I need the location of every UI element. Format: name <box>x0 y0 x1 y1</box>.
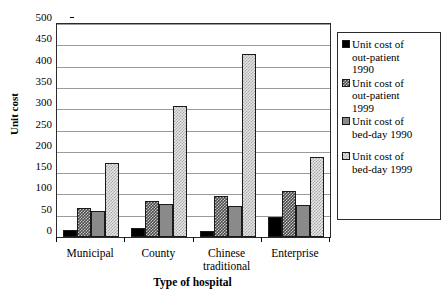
x-category-label: Enterprise <box>261 247 329 260</box>
y-tick-label: 150 <box>18 161 52 172</box>
y-tick-label: 200 <box>18 140 52 151</box>
chart-legend: Unit cost of out-patient 1990Unit cost o… <box>337 32 441 220</box>
bar <box>91 211 105 237</box>
bar <box>173 106 187 237</box>
legend-label: Unit cost of out-patient 1999 <box>352 77 404 115</box>
bar <box>282 191 296 237</box>
bar-group <box>262 24 330 237</box>
x-category-label: Municipal <box>56 247 124 260</box>
y-tick-label: 400 <box>18 55 52 66</box>
legend-item: Unit cost of bed-day 1999 <box>342 150 438 175</box>
y-tick-label: 500 <box>18 12 52 23</box>
legend-label: Unit cost of out-patient 1990 <box>352 38 404 76</box>
legend-item: Unit cost of out-patient 1990 <box>342 38 438 76</box>
x-tick-mark <box>56 237 57 242</box>
y-tick-label: 350 <box>18 76 52 87</box>
legend-label: Unit cost of bed-day 1990 <box>352 115 412 140</box>
bar-chart: Unit cost 500450400350300250200150100500… <box>0 0 447 307</box>
y-tick-label: 300 <box>18 97 52 108</box>
y-axis-tick-labels: 500450400350300250200150100500 <box>18 17 52 237</box>
x-tick-mark <box>124 237 125 242</box>
bar <box>242 54 256 237</box>
bar <box>268 217 282 237</box>
bar <box>77 208 91 237</box>
x-category-label: Chinese traditional <box>193 247 261 273</box>
y-tick-label: 450 <box>18 33 52 44</box>
x-tick-mark <box>261 237 262 242</box>
y-tick-label: 50 <box>18 204 52 215</box>
x-axis-title: Type of hospital <box>56 276 329 288</box>
bar <box>214 196 228 237</box>
bar-group <box>194 24 262 237</box>
legend-swatch <box>342 152 350 160</box>
bar <box>105 163 119 237</box>
plot-area <box>56 23 331 238</box>
y-tick-label: 250 <box>18 119 52 130</box>
bar <box>200 231 214 237</box>
x-tick-mark <box>329 237 330 242</box>
x-tick-mark <box>193 237 194 242</box>
bar <box>131 228 145 237</box>
legend-swatch <box>342 79 350 87</box>
legend-swatch <box>342 117 350 125</box>
bar <box>145 201 159 237</box>
bar <box>63 230 77 237</box>
legend-label: Unit cost of bed-day 1999 <box>352 150 412 175</box>
bar <box>296 205 310 237</box>
x-category-label: County <box>124 247 192 260</box>
bar <box>159 204 173 237</box>
bar <box>310 157 324 237</box>
bar-group <box>57 24 125 237</box>
legend-item: Unit cost of out-patient 1999 <box>342 77 438 115</box>
legend-item: Unit cost of bed-day 1990 <box>342 115 438 140</box>
bar <box>228 206 242 237</box>
y-tick-mark <box>70 17 74 18</box>
y-tick-label: 0 <box>18 225 52 236</box>
legend-swatch <box>342 40 350 48</box>
y-tick-label: 100 <box>18 182 52 193</box>
bar-group <box>125 24 193 237</box>
legend-spacer <box>342 141 438 150</box>
